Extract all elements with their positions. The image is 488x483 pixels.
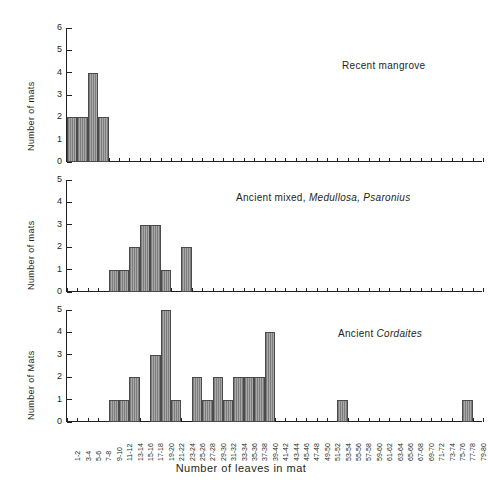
panel1-y-axis-label: Number of mats [26, 220, 36, 290]
bar [119, 400, 129, 422]
x-tick-label: 69-70 [428, 443, 436, 461]
bar [98, 117, 108, 162]
panel0-x-tick [317, 158, 318, 162]
y-tick-mark [67, 269, 72, 270]
bar [171, 400, 181, 422]
x-tick-label: 7-8 [105, 451, 113, 461]
panel0-x-tick [441, 158, 442, 162]
panel-recent-mangrove: Number of mats 0123456 Recent mangrove [0, 18, 482, 166]
x-tick-label: 31-32 [230, 443, 238, 461]
x-tick-label: 77-78 [469, 443, 477, 461]
panel1-x-tick [254, 288, 255, 292]
y-tick-label: 5 [50, 44, 62, 55]
y-tick-mark [67, 354, 72, 355]
panel0-x-tick [202, 158, 203, 162]
x-tick-label: 79-80 [480, 443, 488, 461]
x-tick-label: 73-74 [449, 443, 457, 461]
x-axis-tick-labels: 1-23-45-67-89-1011-1213-1415-1617-1819-2… [66, 427, 482, 467]
x-tick-label: 53-54 [345, 443, 353, 461]
y-tick-mark [67, 399, 72, 400]
panel1-annotation: Ancient mixed, Medullosa, Psaronius [236, 192, 411, 203]
panel0-annotation: Recent mangrove [342, 60, 425, 71]
panel0-x-tick [150, 158, 151, 162]
panel0-x-tick [119, 158, 120, 162]
panel0-x-tick [462, 158, 463, 162]
bar [337, 400, 347, 422]
panel1-x-tick [337, 288, 338, 292]
x-tick-label: 19-20 [168, 443, 176, 461]
panel1-x-tick [348, 288, 349, 292]
y-tick-mark [67, 332, 72, 333]
x-tick-label: 41-42 [282, 443, 290, 461]
panel0-x-tick [379, 158, 380, 162]
panel2-x-tick [98, 418, 99, 422]
x-tick-label: 15-16 [147, 443, 155, 461]
panel1-x-tick [421, 288, 422, 292]
panel2-x-tick [317, 418, 318, 422]
bar [213, 377, 223, 422]
panel0-x-tick [337, 158, 338, 162]
panel0-x-tick [410, 158, 411, 162]
y-tick-label: 2 [50, 371, 62, 382]
panel0-x-tick [358, 158, 359, 162]
panel1-x-tick [67, 288, 68, 292]
y-tick-mark [67, 72, 72, 73]
y-tick-mark [67, 95, 72, 96]
y-tick-label: 0 [50, 416, 62, 427]
panel1-x-tick [192, 288, 193, 292]
panel0-x-tick [171, 158, 172, 162]
panel2-x-tick [77, 418, 78, 422]
x-tick-label: 49-50 [324, 443, 332, 461]
bar [244, 377, 254, 422]
panel1-x-tick [410, 288, 411, 292]
x-tick-label: 17-18 [157, 443, 165, 461]
panel0-x-tick [327, 158, 328, 162]
y-tick-label: 0 [50, 156, 62, 167]
panel0-x-tick [129, 158, 130, 162]
x-tick-label: 71-72 [438, 443, 446, 461]
panel0-x-tick [213, 158, 214, 162]
panel1-x-tick [171, 288, 172, 292]
y-tick-label: 4 [50, 326, 62, 337]
panel1-x-tick [441, 288, 442, 292]
bar [223, 400, 233, 422]
bar [129, 247, 139, 292]
panel1-x-tick [233, 288, 234, 292]
panel0-x-tick [233, 158, 234, 162]
panel1-x-tick [77, 288, 78, 292]
panel-ancient-mixed: Number of mats 012345 Ancient mixed, Med… [0, 172, 482, 296]
y-tick-label: 5 [50, 304, 62, 315]
x-tick-label: 1-2 [74, 451, 82, 461]
panel1-x-tick [317, 288, 318, 292]
panel2-x-tick [441, 418, 442, 422]
x-axis-title: Number of leaves in mat [0, 462, 482, 474]
panel0-x-tick [275, 158, 276, 162]
panel2-x-tick [327, 418, 328, 422]
x-tick-label: 39-40 [272, 443, 280, 461]
y-tick-label: 0 [50, 286, 62, 297]
panel2-y-axis-label: Number of Mats [26, 350, 36, 420]
bar [161, 270, 171, 292]
panel1-x-tick [483, 288, 484, 292]
y-tick-mark [67, 28, 72, 29]
y-tick-mark [67, 224, 72, 225]
panel1-x-tick [452, 288, 453, 292]
x-tick-label: 29-30 [220, 443, 228, 461]
x-tick-label: 51-52 [334, 443, 342, 461]
y-tick-label: 4 [50, 67, 62, 78]
panel2-plot-area: 012345 [66, 310, 482, 422]
x-tick-label: 67-68 [417, 443, 425, 461]
x-tick-label: 59-60 [376, 443, 384, 461]
panel2-x-tick [358, 418, 359, 422]
panel0-x-tick [348, 158, 349, 162]
bar [88, 73, 98, 162]
panel0-x-tick [421, 158, 422, 162]
x-tick-label: 9-10 [116, 447, 124, 461]
x-tick-label: 27-28 [209, 443, 217, 461]
bar [181, 247, 191, 292]
y-tick-label: 1 [50, 394, 62, 405]
bar [140, 225, 150, 292]
panel2-x-tick [348, 418, 349, 422]
panel0-x-tick [285, 158, 286, 162]
panel2-annotation-text: Ancient [338, 328, 373, 339]
